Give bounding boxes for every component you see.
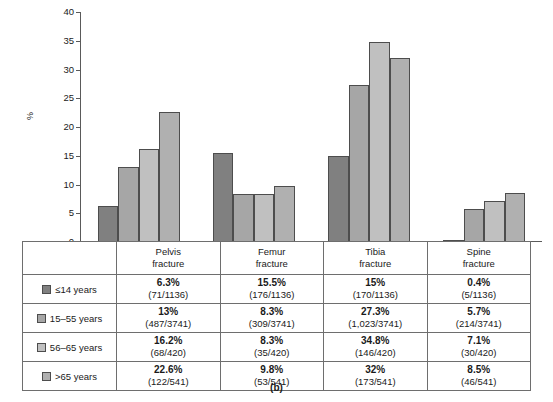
y-axis-title: % (25, 112, 35, 120)
cell-percent: 8.5% (428, 364, 531, 376)
y-tick-label: 5 (44, 208, 74, 218)
bar (464, 209, 485, 242)
table-cell: 27.3%(1,023/3741) (324, 304, 428, 333)
y-tick-label: 20 (44, 122, 74, 132)
y-tick-label: 15 (44, 151, 74, 161)
legend-swatch-icon (42, 285, 51, 294)
cell-percent: 6.3% (117, 277, 220, 289)
table-corner-cell (23, 242, 117, 275)
cell-fraction: (176/1136) (221, 289, 324, 301)
cell-percent: 8.3% (221, 306, 324, 318)
cell-fraction: (71/1136) (117, 289, 220, 301)
legend-label-text: 15–55 years (50, 313, 102, 324)
legend-swatch-icon (42, 372, 51, 381)
column-header-line1: Tibia (324, 246, 427, 258)
cell-percent: 9.8% (221, 364, 324, 376)
column-header-line1: Spine (428, 246, 531, 258)
bar-chart-plot: % 0510152025303540 (0, 0, 553, 248)
table-cell: 7.1%(30/420) (427, 333, 531, 362)
bar (118, 167, 139, 242)
cell-percent: 8.3% (221, 335, 324, 347)
column-header-line2: fracture (324, 258, 427, 270)
bar (213, 153, 234, 242)
cell-fraction: (35/420) (221, 347, 324, 359)
cell-fraction: (170/1136) (324, 289, 427, 301)
bar (349, 85, 370, 242)
y-tick-label: 30 (44, 65, 74, 75)
legend-row-label: ≤14 years (23, 275, 117, 304)
y-tick-label: 35 (44, 36, 74, 46)
table-column-header: Tibiafracture (324, 242, 428, 275)
table-cell: 34.8%(146/420) (324, 333, 428, 362)
cell-fraction: (68/420) (117, 347, 220, 359)
table-cell: 16.2%(68/420) (117, 333, 221, 362)
bar (233, 194, 254, 242)
table-row: 15–55 years13%(487/3741)8.3%(309/3741)27… (23, 304, 531, 333)
y-tick-label: 40 (44, 7, 74, 17)
column-header-line2: fracture (428, 258, 531, 270)
cell-percent: 13% (117, 306, 220, 318)
table-cell: 6.3%(71/1136) (117, 275, 221, 304)
table-column-header: Spinefracture (427, 242, 531, 275)
table-cell: 15%(170/1136) (324, 275, 428, 304)
column-header-line2: fracture (221, 258, 324, 270)
cell-fraction: (30/420) (428, 347, 531, 359)
legend-row-label: 15–55 years (23, 304, 117, 333)
bar (505, 193, 526, 242)
legend-label-text: 56–65 years (50, 342, 102, 353)
legend-label-text: ≤14 years (55, 284, 97, 295)
bar (369, 42, 390, 242)
cell-percent: 0.4% (428, 277, 531, 289)
table-cell: 8.3%(309/3741) (220, 304, 324, 333)
cell-fraction: (5/1136) (428, 289, 531, 301)
table-header-row: PelvisfractureFemurfractureTibiafracture… (23, 242, 531, 275)
table-column-header: Pelvisfracture (117, 242, 221, 275)
cell-fraction: (309/3741) (221, 318, 324, 330)
bar (98, 206, 119, 242)
cell-fraction: (146/420) (324, 347, 427, 359)
bar (328, 156, 349, 242)
cell-percent: 15.5% (221, 277, 324, 289)
column-header-line1: Pelvis (117, 246, 220, 258)
bar (139, 149, 160, 242)
bar-group (213, 12, 295, 242)
cell-percent: 16.2% (117, 335, 220, 347)
cell-percent: 34.8% (324, 335, 427, 347)
data-table-region: PelvisfractureFemurfractureTibiafracture… (22, 241, 531, 381)
y-tick-label: 25 (44, 93, 74, 103)
legend-swatch-icon (37, 343, 46, 352)
bar (390, 58, 411, 242)
legend-swatch-icon (37, 314, 46, 323)
column-header-line1: Femur (221, 246, 324, 258)
table-cell: 13%(487/3741) (117, 304, 221, 333)
figure-panel-b: % 0510152025303540 PelvisfractureFemurfr… (0, 0, 553, 402)
legend-row-label: 56–65 years (23, 333, 117, 362)
cell-percent: 5.7% (428, 306, 531, 318)
table-cell: 5.7%(214/3741) (427, 304, 531, 333)
cell-percent: 22.6% (117, 364, 220, 376)
table-row: ≤14 years6.3%(71/1136)15.5%(176/1136)15%… (23, 275, 531, 304)
column-header-line2: fracture (117, 258, 220, 270)
cell-percent: 32% (324, 364, 427, 376)
bars-layer (81, 12, 542, 242)
bar (484, 201, 505, 242)
bar-group (443, 12, 525, 242)
figure-caption: (b) (0, 382, 553, 393)
y-tick-label: 10 (44, 180, 74, 190)
legend-label-text: >65 years (55, 371, 97, 382)
bar (274, 186, 295, 242)
bar (254, 194, 275, 242)
cell-percent: 27.3% (324, 306, 427, 318)
cell-fraction: (214/3741) (428, 318, 531, 330)
table-cell: 0.4%(5/1136) (427, 275, 531, 304)
table-column-header: Femurfracture (220, 242, 324, 275)
cell-fraction: (487/3741) (117, 318, 220, 330)
table-cell: 8.3%(35/420) (220, 333, 324, 362)
cell-percent: 15% (324, 277, 427, 289)
cell-fraction: (1,023/3741) (324, 318, 427, 330)
data-table: PelvisfractureFemurfractureTibiafracture… (22, 241, 531, 391)
bar (159, 112, 180, 242)
cell-percent: 7.1% (428, 335, 531, 347)
table-cell: 15.5%(176/1136) (220, 275, 324, 304)
bar-group (98, 12, 180, 242)
